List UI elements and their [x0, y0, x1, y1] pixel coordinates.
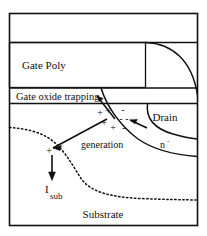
figure-root: + + + + - - - - + Gate Poly Gate oxide t…	[0, 0, 207, 236]
n-minus-label: n	[160, 139, 165, 150]
substrate-current-arrowhead	[49, 172, 56, 181]
charge-positive: +	[110, 122, 116, 133]
charge-negative: -	[125, 113, 128, 124]
gate-sidewall-curve	[146, 43, 198, 96]
electron-injection-arrow	[130, 119, 147, 128]
substrate-label: Substrate	[83, 208, 124, 220]
substrate-current-subscript: sub	[50, 191, 63, 201]
generation-label: generation	[81, 139, 123, 150]
substrate-current-arrow	[49, 155, 56, 181]
drain-label: Drain	[152, 111, 178, 123]
device-cross-section-diagram: + + + + - - - - + Gate Poly Gate oxide t…	[0, 0, 207, 236]
substrate-current-symbol: I	[45, 183, 49, 195]
gate-poly-label: Gate Poly	[22, 59, 66, 71]
charge-negative: -	[122, 122, 125, 133]
charge-positive: +	[101, 117, 107, 128]
charge-positive: +	[105, 105, 111, 116]
charge-positive-substrate: +	[46, 145, 52, 156]
n-minus-superscript: -	[167, 137, 170, 145]
gate-oxide-label: Gate oxide trapping	[16, 91, 100, 102]
